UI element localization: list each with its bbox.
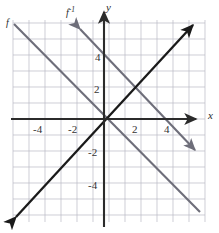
y-tick-label--2: -2 — [88, 147, 97, 158]
y-tick-label-2: 2 — [94, 84, 100, 95]
curve-label-f: f — [6, 18, 9, 28]
graph-figure: f f-1 y x -4 -2 2 4 4 2 -2 -4 — [0, 0, 219, 233]
x-tick-label--4: -4 — [33, 124, 42, 135]
curve-label-f-inverse-superscript: -1 — [69, 5, 75, 14]
axis-label-x: x — [208, 110, 213, 121]
x-tick-label-2: 2 — [132, 124, 138, 135]
curve-label-f-inverse: f-1 — [66, 6, 75, 18]
y-tick-label-4: 4 — [95, 52, 101, 63]
x-tick-label-4: 4 — [164, 124, 170, 135]
coordinate-plane — [0, 0, 219, 233]
x-tick-label--2: -2 — [68, 124, 77, 135]
axis-label-y: y — [106, 2, 111, 13]
y-tick-label--4: -4 — [88, 180, 97, 191]
